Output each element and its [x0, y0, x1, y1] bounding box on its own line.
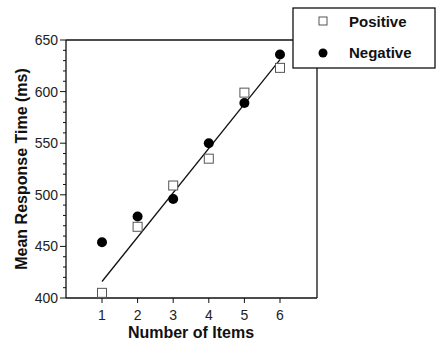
y-tick-label: 650	[35, 32, 59, 48]
positive-point	[169, 181, 178, 190]
y-tick-label: 550	[35, 135, 59, 151]
x-tick-label: 3	[169, 307, 177, 323]
scatter-chart: 400450500550600650 123456 Number of Item…	[0, 0, 446, 354]
positive-point	[276, 63, 285, 72]
positive-point	[98, 288, 107, 297]
legend-positive-label: Positive	[349, 13, 407, 30]
positive-point	[240, 88, 249, 97]
y-tick-label: 450	[35, 238, 59, 254]
y-axis-ticks: 400450500550600650	[35, 32, 66, 306]
x-tick-label: 1	[98, 307, 106, 323]
y-axis-title: Mean Response Time (ms)	[13, 68, 30, 270]
negative-point	[275, 49, 285, 59]
legend-negative-label: Negative	[349, 44, 412, 61]
legend-negative-marker-icon	[319, 49, 328, 58]
negative-point	[133, 211, 143, 221]
y-tick-label: 400	[35, 290, 59, 306]
y-tick-label: 600	[35, 84, 59, 100]
x-tick-label: 6	[276, 307, 284, 323]
legend-positive-marker-icon	[319, 17, 327, 25]
y-tick-label: 500	[35, 187, 59, 203]
x-tick-label: 5	[241, 307, 249, 323]
negative-point	[204, 138, 214, 148]
x-axis-ticks: 123456	[98, 298, 284, 323]
data-points	[97, 49, 285, 297]
regression-line	[102, 60, 280, 282]
x-tick-label: 2	[134, 307, 142, 323]
positive-point	[133, 222, 142, 231]
negative-point	[168, 194, 178, 204]
x-axis-title: Number of Items	[128, 324, 254, 341]
positive-point	[204, 154, 213, 163]
negative-point	[239, 98, 249, 108]
legend: Positive Negative	[293, 8, 435, 68]
x-tick-label: 4	[205, 307, 213, 323]
negative-point	[97, 237, 107, 247]
